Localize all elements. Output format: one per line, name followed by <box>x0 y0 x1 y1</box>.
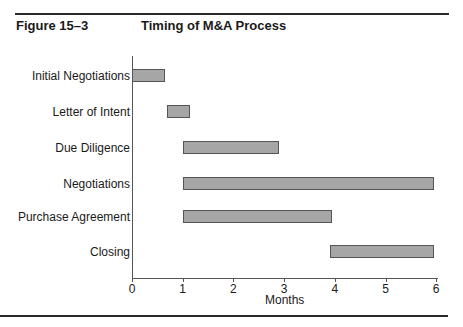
x-axis-label: Months <box>265 293 304 307</box>
gantt-chart: Initial NegotiationsLetter of IntentDue … <box>0 0 463 327</box>
category-label: Closing <box>90 245 130 259</box>
category-label: Initial Negotiations <box>32 69 130 83</box>
gantt-bar <box>132 69 165 82</box>
x-tick-label: 5 <box>376 282 396 296</box>
x-tick-label: 0 <box>122 282 142 296</box>
category-label: Letter of Intent <box>53 105 130 119</box>
y-axis <box>132 56 133 278</box>
gantt-bar <box>167 105 190 118</box>
gantt-bar <box>183 141 279 154</box>
gantt-bar <box>330 245 434 258</box>
x-tick-label: 6 <box>426 282 446 296</box>
x-tick-label: 2 <box>223 282 243 296</box>
gantt-bar <box>183 177 434 190</box>
gantt-bar <box>183 210 333 223</box>
category-label: Purchase Agreement <box>18 210 130 224</box>
x-tick-label: 1 <box>173 282 193 296</box>
category-label: Due Diligence <box>55 141 130 155</box>
x-tick-label: 4 <box>325 282 345 296</box>
category-label: Negotiations <box>63 177 130 191</box>
bottom-rule <box>0 315 448 317</box>
